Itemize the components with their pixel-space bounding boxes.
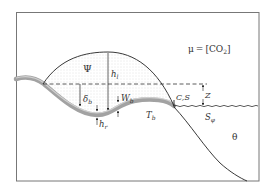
- label-theta: θ: [232, 132, 237, 142]
- label-s-phi: Sφ: [205, 112, 216, 124]
- label-cs: C,S: [176, 93, 190, 102]
- sea-surface-wavy: [174, 105, 258, 106]
- equation-mu: μ=[CO2]: [188, 44, 231, 55]
- diagram-canvas: μ=[CO2] Ψ hl δb Wb hr Tb C,S Z Sφ θ: [0, 0, 271, 190]
- label-psi: Ψ: [83, 63, 92, 74]
- lake-stipple-region: [44, 52, 174, 115]
- label-z: Z: [204, 91, 211, 100]
- label-hr: hr: [99, 119, 108, 130]
- label-tb: Tb: [146, 110, 156, 121]
